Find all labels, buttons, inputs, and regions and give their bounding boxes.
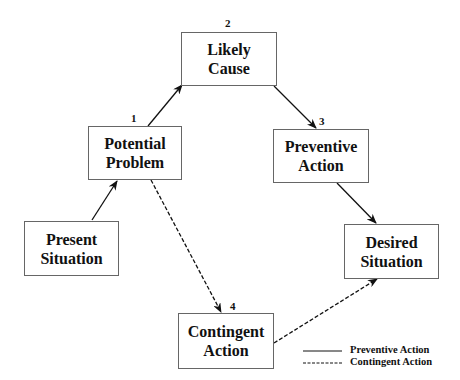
node-potential-problem-line1: Potential [104,134,165,153]
step-number-3: 3 [319,115,325,127]
node-present-situation-line1: Present [46,230,97,249]
node-likely-cause: Likely Cause [181,32,277,86]
node-desired-situation-line1: Desired [365,233,417,252]
step-number-2: 2 [225,17,231,29]
node-preventive-action-line2: Action [298,156,343,175]
legend-contingent-label: Contingent Action [350,356,432,367]
node-contingent-action-line2: Action [203,341,248,360]
node-contingent-action-line1: Contingent [188,322,264,341]
edge-present-to-potential [92,181,117,220]
edge-potential-to-contingent [151,180,221,312]
legend-preventive-label: Preventive Action [350,344,429,355]
node-desired-situation: Desired Situation [344,224,439,279]
node-potential-problem: Potential Problem [88,126,182,180]
edge-preventive-to-desired [337,183,376,223]
node-preventive-action: Preventive Action [273,129,369,183]
edge-potential-to-likely [148,85,182,126]
node-preventive-action-line1: Preventive [285,137,358,156]
node-likely-cause-line1: Likely [207,40,251,59]
node-likely-cause-line2: Cause [208,59,250,78]
node-desired-situation-line2: Situation [360,252,422,271]
step-number-4: 4 [230,300,236,312]
node-present-situation: Present Situation [24,221,119,276]
edge-likely-to-preventive [274,86,316,128]
node-potential-problem-line2: Problem [106,153,164,172]
step-number-1: 1 [131,112,137,124]
node-present-situation-line2: Situation [40,249,102,268]
edge-contingent-to-desired [274,279,377,343]
node-contingent-action: Contingent Action [178,313,274,369]
